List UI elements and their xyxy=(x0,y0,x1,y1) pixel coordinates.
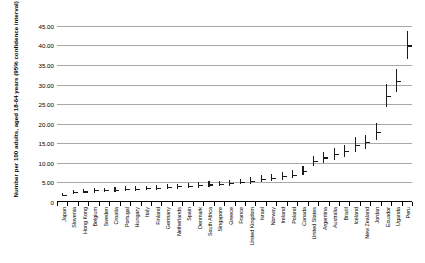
x-axis-label: Croatia xyxy=(116,190,122,207)
x-axis-label-text: France xyxy=(238,207,244,224)
x-axis-label: Portugal xyxy=(127,187,133,207)
plot-area xyxy=(57,18,412,202)
x-axis-label-text: Greece xyxy=(228,207,234,225)
x-axis-label-text: Argentina xyxy=(322,207,328,230)
error-bar-center xyxy=(365,142,370,143)
x-axis-label-text: Slovenia xyxy=(71,207,77,228)
x-axis-label-text: Belgium xyxy=(92,207,98,226)
x-axis-label: Iceland xyxy=(356,190,362,207)
x-axis-label: United Kingdom xyxy=(252,169,258,207)
x-axis-label: South Africa xyxy=(210,178,216,207)
x-axis-label: Denmark xyxy=(200,185,206,207)
x-axis-label-text: Croatia xyxy=(113,207,119,224)
x-axis-label-text: Australia xyxy=(332,207,338,228)
gridline xyxy=(57,85,412,86)
gridline xyxy=(57,104,412,105)
x-axis-label: Norway xyxy=(273,189,279,207)
x-axis-label: Belgium xyxy=(95,188,101,207)
x-axis-tick xyxy=(57,202,58,206)
error-bar-center xyxy=(313,161,318,162)
x-axis-label-text: Uganda xyxy=(395,207,401,226)
y-axis-tick-label: 35.00 xyxy=(39,62,54,69)
x-axis-label: France xyxy=(241,190,247,207)
y-axis-tick-label: 10.00 xyxy=(39,159,54,166)
x-axis-label: Australia xyxy=(335,186,341,207)
x-axis-label-text: Ecuador xyxy=(385,207,391,227)
x-axis-label-text: Ireland xyxy=(280,207,286,223)
x-axis-label-text: Netherlands xyxy=(176,207,182,236)
x-axis-label: Brazil xyxy=(346,194,352,207)
gridline xyxy=(57,124,412,125)
chart-container: Number per 100 adults, aged 18-64 years … xyxy=(0,0,425,263)
x-axis-label-text: Spain xyxy=(186,207,192,221)
x-axis-label: Sweden xyxy=(106,188,112,207)
error-bar-center xyxy=(323,157,328,158)
x-axis-label: Israel xyxy=(262,194,268,207)
x-axis-label-text: United Kingdom xyxy=(249,207,255,245)
x-axis-label: Finland xyxy=(158,189,164,207)
y-axis-tick-label: 0 xyxy=(51,199,54,206)
x-axis-label-text: Sweden xyxy=(103,207,109,226)
y-axis-tick-label: 25.00 xyxy=(39,101,54,108)
x-axis-label: Hong Kong xyxy=(85,180,91,207)
x-axis-label: United States xyxy=(314,175,320,207)
y-axis-tick-label: 30.00 xyxy=(39,81,54,88)
x-axis-label: Japan xyxy=(64,192,70,207)
x-axis-label-text: Finland xyxy=(155,207,161,225)
error-bar-center xyxy=(261,179,266,180)
x-axis-label-text: Singapore xyxy=(217,207,223,232)
x-axis-label: Peru xyxy=(408,196,414,207)
x-axis-label-text: United States xyxy=(311,207,317,239)
error-bar-center xyxy=(386,96,391,97)
error-bar-center xyxy=(188,186,193,187)
x-axis-label-text: Iceland xyxy=(353,207,359,224)
error-bar-center xyxy=(271,178,276,179)
x-axis-label-text: Brazil xyxy=(343,207,349,220)
x-axis-label-text: Poland xyxy=(291,207,297,224)
x-axis-label-text: Jordan xyxy=(374,207,380,223)
x-axis-label-text: South Africa xyxy=(207,207,213,236)
error-bar-center xyxy=(396,81,401,82)
x-axis-label: Italy xyxy=(147,197,153,207)
x-axis-label-text: Israel xyxy=(259,207,265,220)
x-axis-label-text: Portugal xyxy=(124,207,130,227)
x-axis-label-text: Denmark xyxy=(197,207,203,229)
x-axis-label: Jordan xyxy=(377,191,383,207)
error-bar-center xyxy=(355,145,360,146)
x-axis-label: Netherlands xyxy=(179,178,185,207)
error-bar-center xyxy=(407,45,412,46)
x-axis-label-text: Germany xyxy=(165,207,171,229)
x-axis-label-text: Canada xyxy=(301,207,307,226)
x-axis-label-text: Italy xyxy=(144,207,150,217)
x-axis-label-text: New Zealand xyxy=(364,207,370,239)
error-bar-center xyxy=(302,171,307,172)
x-axis-label: Ireland xyxy=(283,191,289,207)
y-axis-tick-label: 45.00 xyxy=(39,22,54,29)
y-axis-tick-label: 5.00 xyxy=(42,179,54,186)
y-axis-tick-labels: 45.0040.0035.0030.0025.0020.0015.0010.00… xyxy=(0,18,54,202)
x-axis-label-text: Norway xyxy=(270,207,276,225)
gridline xyxy=(57,163,412,164)
x-axis-label: Argentina xyxy=(325,184,331,207)
error-bar-center xyxy=(344,151,349,152)
error-bar-center xyxy=(376,132,381,133)
y-axis-tick-label: 20.00 xyxy=(39,120,54,127)
x-axis-label: Hungary xyxy=(137,187,143,207)
x-axis-label: Spain xyxy=(189,193,195,207)
x-axis-label: Slovenia xyxy=(74,186,80,207)
gridline xyxy=(57,182,412,183)
x-axis-label: Singapore xyxy=(220,182,226,207)
x-axis-label-text: Peru xyxy=(405,207,411,218)
x-axis-label: Poland xyxy=(294,190,300,207)
x-axis-label: Germany xyxy=(168,185,174,207)
x-axis-label: New Zealand xyxy=(367,175,373,207)
x-axis-label-text: Hungary xyxy=(134,207,140,227)
x-axis-labels: JapanSloveniaHong KongBelgiumSwedenCroat… xyxy=(57,207,412,263)
y-axis-tick-label: 40.00 xyxy=(39,42,54,49)
gridline xyxy=(57,45,412,46)
x-axis-label: Canada xyxy=(304,188,310,207)
error-bar-center xyxy=(292,175,297,176)
error-bar-center xyxy=(229,183,234,184)
error-bar-center xyxy=(146,188,151,189)
x-axis-label-text: Hong Kong xyxy=(82,207,88,234)
